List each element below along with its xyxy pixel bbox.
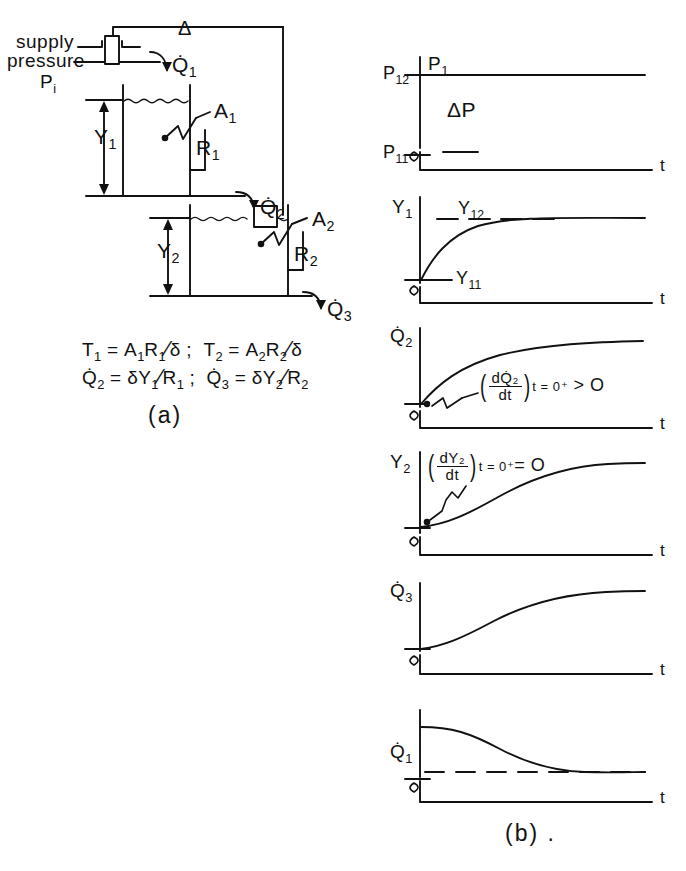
plot-y2-annotation-denominator: dt [437,466,469,483]
plot-p1-initial-label: P11 [383,143,408,165]
flow-label-q1: Q̇1 [172,54,197,79]
plot-q1-curve [421,727,645,772]
supply-pressure-symbol: Pi [40,72,56,96]
supply-valve-icon [105,36,119,64]
plot-y2-annotation: (dY₂dt)t = 0⁺= O [426,450,545,483]
plot-y2-y-axis-label: Y2 [390,452,410,476]
tank-2-height-label: Y2 [157,240,179,265]
plot-y2-annotation-numerator: dY₂ [437,450,469,466]
plot-q2-leader-zigzag [432,398,462,408]
tank-1-resistance-label: R1 [196,137,220,162]
plot-y1-y-axis-label: Y1 [392,197,412,221]
flow-label-q3: Q̇3 [327,298,352,323]
plot-q2-annotation-subscript: t = 0⁺ [532,379,568,394]
plot-p1-delta-label: ΔP [447,99,476,120]
plot-y2-x-axis-label: t [660,542,665,559]
plot-q2-x-axis-label: t [660,415,665,432]
plot-y1-curve [421,218,645,280]
tank-1-area-label: A1 [214,100,236,125]
supply-pressure-line-2: pressure [7,51,85,70]
plot-q3-curve [421,591,645,649]
plot-q2-annotation-relation: > O [574,375,605,395]
plot-q1-y-axis-label: Q̇1 [390,742,412,766]
r1-node-dot [162,135,169,142]
plot-y1-x-axis-label: t [660,290,665,307]
plot-y2-leader-zigzag [430,486,466,520]
plot-p1-x-axis-label: t [660,157,665,174]
plot-p1-final-label: P12 [383,64,409,86]
supply-pressure-line-1: supply [16,32,74,51]
plot-q2-y-axis-label: Q̇2 [390,326,412,350]
plot-q3-axes [410,583,652,674]
plot-y1-final-label: Y12 [458,199,484,221]
caption-a: (a) [148,404,182,427]
equation-flows: Q̇2 = δY1⁄R1 ; Q̇3 = δY2⁄R2 [82,366,308,392]
plot-y1-axes [410,197,652,303]
plot-q1-x-axis-label: t [660,789,665,806]
equation-time-constants: T1 = A1R1⁄δ ; T2 = A2R2⁄δ [82,338,302,364]
vent-delta-icon: Δ [178,18,192,38]
plot-y2-annotation-relation: = O [514,455,545,475]
caption-b: (b) . [505,822,556,845]
tank-1-water-surface [124,99,188,102]
flow-label-q2: Q̇2 [260,196,285,221]
tank-2-resistance-label: R2 [294,243,318,268]
plot-q1-axes [410,710,652,802]
plot-q2-annotation-denominator: dt [489,386,522,403]
inflow-arrow-q1 [150,52,167,70]
plot-p1-y-axis-label: P1 [428,54,448,78]
tank-2-area-label: A2 [312,208,334,233]
r2-node-dot [258,241,265,248]
plot-q3-x-axis-label: t [660,661,665,678]
plot-y1-initial-label: Y11 [456,269,481,291]
plot-q2-annotation-numerator: dQ̇₂ [489,370,522,386]
figure-canvas: supply pressure Pi Δ Q̇1 Y1 A1 R1 Q̇2 Y2… [0,0,686,871]
tank-1-height-label: Y1 [94,126,116,151]
plot-q2-annotation: (dQ̇₂dt)t = 0⁺ > O [478,370,605,403]
tank-2-water-surface-left [191,217,247,220]
plot-q3-y-axis-label: Q̇3 [390,581,412,605]
plot-y2-annotation-subscript: t = 0⁺ [479,459,515,474]
plot-q2-start-dot [424,401,430,407]
